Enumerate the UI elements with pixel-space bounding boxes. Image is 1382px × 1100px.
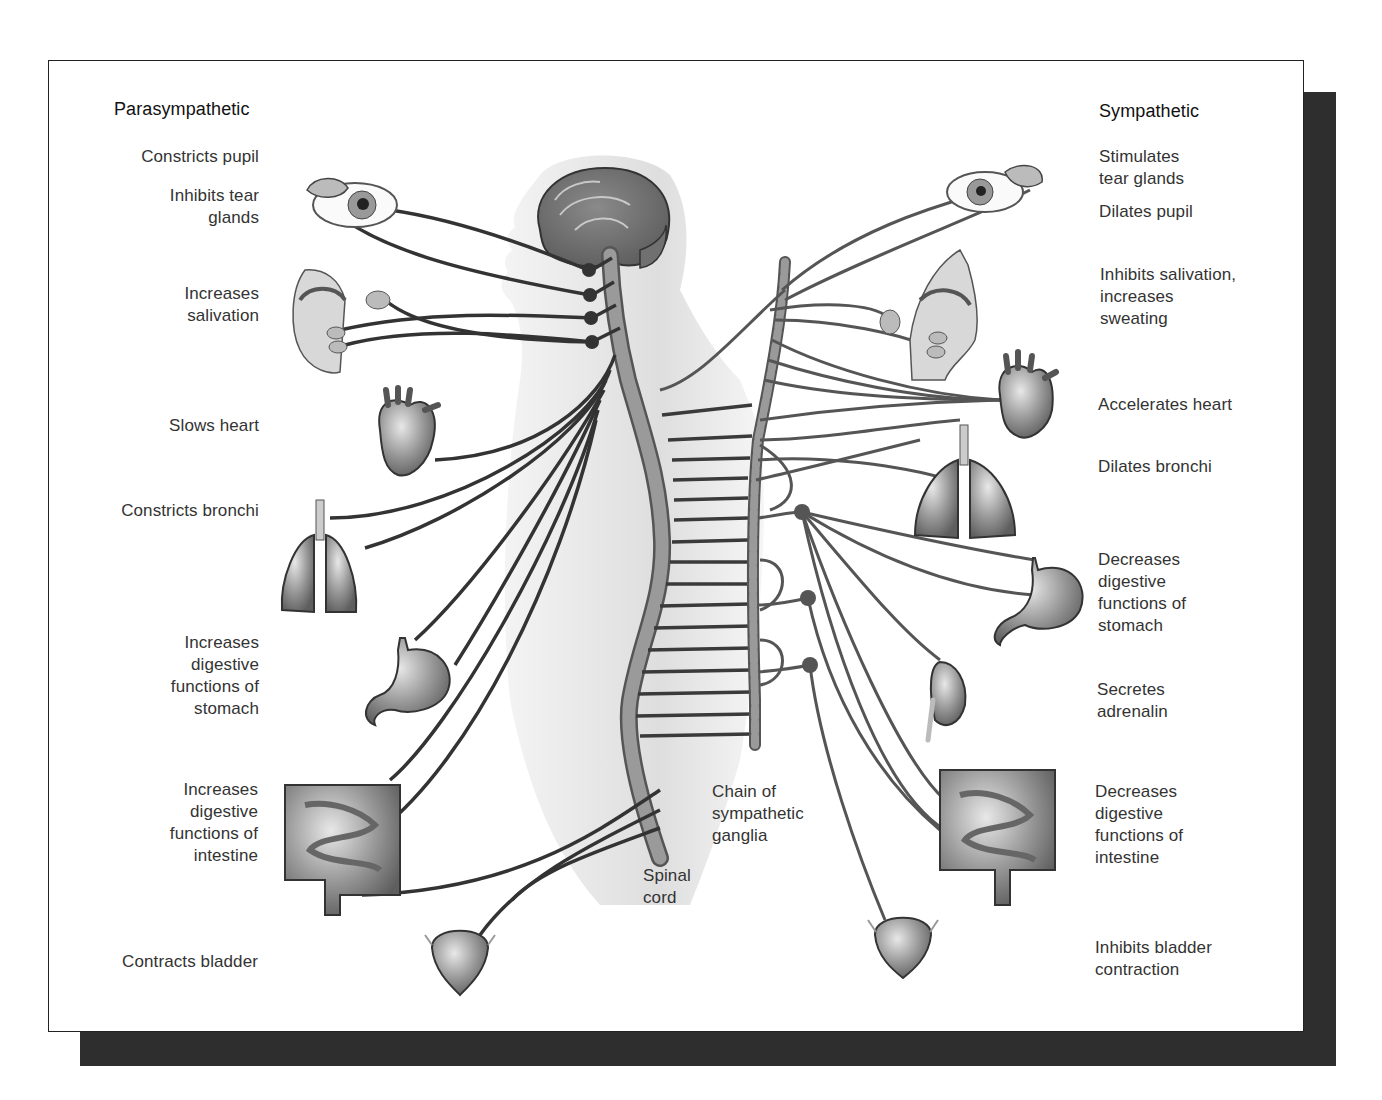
right-bladder [868, 918, 938, 978]
left-stomach [366, 638, 450, 725]
label-symp-intestine: Decreases digestive functions of intesti… [1095, 781, 1183, 869]
right-lungs [915, 425, 1015, 538]
right-heart [999, 352, 1056, 438]
left-face-mouth [293, 270, 390, 373]
label-symp-adrenal: Secretes adrenalin [1097, 679, 1168, 723]
label-para-saliva: Increases salivation [184, 283, 259, 327]
left-heart [379, 388, 438, 475]
label-para-stomach: Increases digestive functions of stomach [171, 632, 259, 720]
right-eye [947, 165, 1042, 212]
label-para-heart: Slows heart [169, 415, 259, 437]
label-para-tear: Inhibits tear glands [170, 185, 259, 229]
label-para-bladder: Contracts bladder [122, 951, 258, 973]
label-symp-tear: Stimulates tear glands [1099, 146, 1184, 190]
parasympathetic-heading: Parasympathetic [114, 98, 250, 120]
label-symp-stomach: Decreases digestive functions of stomach [1098, 549, 1186, 637]
sympathetic-heading: Sympathetic [1099, 100, 1199, 122]
label-symp-pupil: Dilates pupil [1099, 201, 1193, 223]
label-ganglia-chain: Chain of sympathetic ganglia [712, 781, 804, 847]
left-intestine [285, 785, 400, 915]
right-intestine [940, 770, 1055, 905]
label-symp-heart: Accelerates heart [1098, 394, 1232, 416]
right-stomach [995, 558, 1083, 645]
label-para-bronchi: Constricts bronchi [121, 500, 259, 522]
label-symp-bladder: Inhibits bladder contraction [1095, 937, 1212, 981]
label-symp-saliva: Inhibits salivation, increases sweating [1100, 264, 1236, 330]
label-para-pupil: Constricts pupil [141, 146, 259, 168]
label-spinal-cord: Spinal cord [643, 865, 691, 909]
left-bladder [425, 931, 495, 995]
right-adrenal-kidney [928, 662, 965, 740]
label-para-intestine: Increases digestive functions of intesti… [170, 779, 258, 867]
left-eye [307, 178, 397, 227]
label-symp-bronchi: Dilates bronchi [1098, 456, 1212, 478]
right-face-mouth [880, 250, 977, 380]
